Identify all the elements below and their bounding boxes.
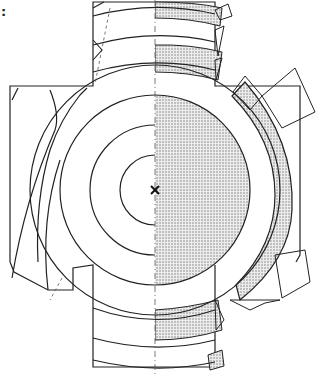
dashed-guides bbox=[50, 0, 155, 377]
cross-section-diagram bbox=[0, 0, 325, 377]
